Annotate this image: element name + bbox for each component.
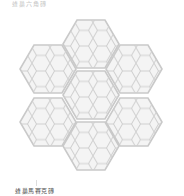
hexagon-tile-image (0, 0, 184, 196)
bottom-caption: 蜂巢馬賽克磚 (15, 187, 54, 195)
divider (36, 180, 37, 186)
